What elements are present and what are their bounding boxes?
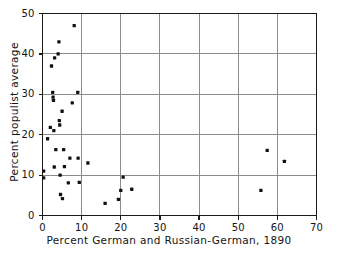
scatter-plot-figure: 01020304050607001020304050 Percent Germa… — [0, 0, 338, 258]
data-point — [63, 165, 66, 168]
data-point — [51, 91, 54, 94]
x-tick-label: 40 — [186, 222, 212, 233]
data-point — [50, 64, 53, 67]
x-tick-label: 30 — [147, 222, 173, 233]
data-point — [53, 56, 56, 59]
data-point — [130, 188, 133, 191]
data-point — [61, 197, 64, 200]
data-point — [54, 148, 57, 151]
gridlines-group — [43, 14, 317, 216]
data-point — [42, 169, 45, 172]
data-point — [121, 175, 124, 178]
data-point — [58, 119, 61, 122]
data-point — [49, 126, 52, 129]
data-point — [86, 161, 89, 164]
x-tick-label: 20 — [108, 222, 134, 233]
x-tick-label: 70 — [304, 222, 330, 233]
data-point — [46, 137, 49, 140]
data-point — [51, 95, 54, 98]
data-point — [67, 181, 70, 184]
data-point — [52, 129, 55, 132]
data-points-group — [42, 24, 286, 205]
data-point — [68, 156, 71, 159]
data-point — [117, 198, 120, 201]
plot-frame — [43, 14, 317, 216]
data-point — [60, 110, 63, 113]
data-point — [76, 156, 79, 159]
data-point — [59, 193, 62, 196]
data-point — [283, 160, 286, 163]
data-point — [119, 189, 122, 192]
data-point — [58, 173, 61, 176]
data-point — [58, 123, 61, 126]
data-point — [266, 149, 269, 152]
y-axis-title: Percent populist average — [8, 11, 20, 213]
data-point — [42, 176, 45, 179]
data-point — [57, 52, 60, 55]
data-point — [53, 165, 56, 168]
data-point — [71, 101, 74, 104]
data-point — [78, 181, 81, 184]
x-tick-label: 0 — [30, 222, 56, 233]
data-point — [52, 99, 55, 102]
x-tick-label: 60 — [264, 222, 290, 233]
x-tick-label: 50 — [225, 222, 251, 233]
data-point — [57, 40, 60, 43]
data-point — [62, 148, 65, 151]
tick-marks-group — [39, 14, 317, 220]
y-axis-title-wrapper: Percent populist average — [8, 11, 24, 213]
data-point — [76, 91, 79, 94]
data-point — [259, 189, 262, 192]
x-axis-title: Percent German and Russian-German, 1890 — [0, 234, 338, 246]
data-point — [103, 202, 106, 205]
plot-canvas — [0, 0, 338, 258]
data-point — [73, 24, 76, 27]
x-tick-label: 10 — [69, 222, 95, 233]
